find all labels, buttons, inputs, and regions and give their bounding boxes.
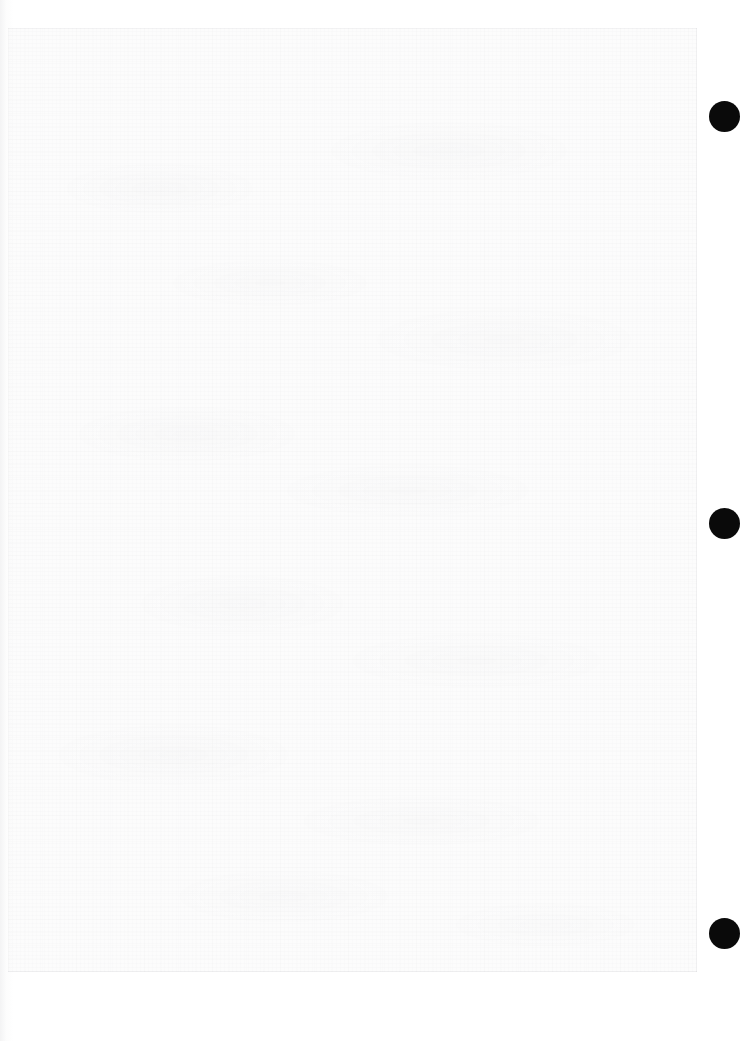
punch-mark-top <box>709 101 740 132</box>
scan-gutter-shadow <box>0 0 14 1041</box>
sheet-edge-right <box>696 28 697 972</box>
bleed-through-ghost-text <box>8 28 697 972</box>
paper-sheet <box>8 28 697 972</box>
sheet-edge-top <box>8 28 697 29</box>
scanned-page <box>0 0 751 1041</box>
sheet-edge-bottom <box>8 971 697 972</box>
punch-mark-middle <box>709 508 740 539</box>
punch-mark-bottom <box>709 918 740 949</box>
